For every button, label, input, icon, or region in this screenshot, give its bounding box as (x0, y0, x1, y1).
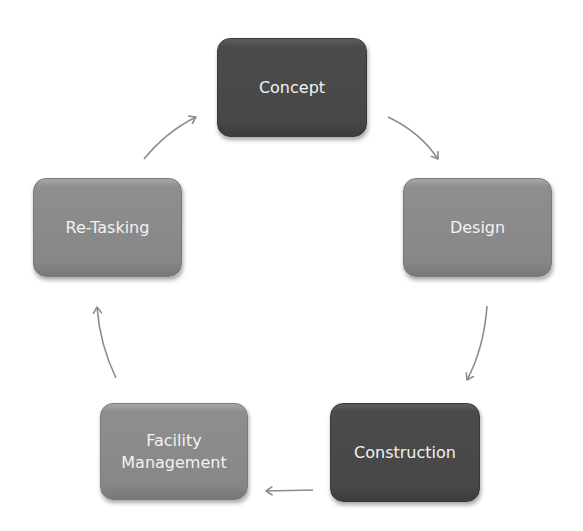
node-facility-management: Facility Management (100, 403, 248, 500)
node-re-tasking: Re-Tasking (33, 178, 182, 277)
node-concept: Concept (217, 38, 367, 137)
node-construction: Construction (330, 403, 480, 502)
arrow-retasking-to-concept (144, 117, 196, 159)
arrow-design-to-construction (467, 306, 487, 380)
arrow-facility-to-retasking (97, 307, 116, 378)
node-construction-label: Construction (348, 442, 462, 464)
node-design-label: Design (444, 217, 511, 239)
node-re-tasking-label: Re-Tasking (60, 217, 156, 239)
node-facility-management-label-line2: Management (115, 452, 232, 474)
node-facility-management-label-line1: Facility (140, 430, 207, 452)
node-design: Design (403, 178, 552, 277)
cycle-diagram: Concept Design Construction Facility Man… (0, 0, 583, 531)
node-concept-label: Concept (253, 77, 331, 99)
arrow-construction-to-facility (266, 490, 313, 491)
arrow-concept-to-design (388, 117, 438, 159)
